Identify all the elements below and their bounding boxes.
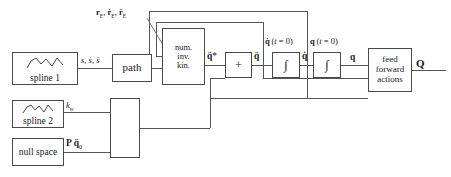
wire-sum-to-int1 [252, 65, 272, 66]
signal-label-integrator1-initial-condition: q̇ (t = 0) [265, 36, 293, 46]
wire-nik-to-sum [205, 65, 225, 66]
signal-label-sum-output: q̈ [254, 51, 259, 61]
wire-feedback-inner-riser [263, 22, 264, 65]
block-middle-unlabeled[interactable] [110, 98, 140, 158]
wire-nullspace-to-mid [64, 152, 110, 153]
block-feed-forward-actions[interactable]: feed forward actions [368, 48, 412, 92]
block-path-label: path [123, 62, 142, 74]
wire-qdot-to-feedforward [263, 78, 368, 79]
integral-icon: ∫ [284, 58, 288, 72]
block-summing-junction[interactable]: + [225, 52, 252, 78]
signal-label-nullspace-output: P q̈0 [66, 138, 82, 150]
wire-spline2-to-mid [64, 112, 110, 113]
block-spline-2[interactable]: spline 2 [12, 100, 64, 128]
signal-label-feedforward-output: Q [416, 57, 425, 69]
block-integrator-2[interactable]: ∫ [313, 52, 341, 78]
wire-q-branch-down [307, 65, 308, 98]
signal-label-spline1-output: s, ṡ, s̈ [81, 55, 99, 65]
block-null-space[interactable]: null space [12, 138, 64, 166]
integral-icon: ∫ [325, 58, 329, 72]
block-path[interactable]: path [112, 54, 152, 82]
wire-feedback-outer-top [149, 11, 308, 12]
summing-junction-plus-sign: + [235, 59, 242, 72]
block-diagram-canvas: spline 1 spline 2 null space path num. i… [0, 0, 451, 177]
wire-qdot-branch-down [263, 65, 264, 78]
wire-riser-to-sum [210, 78, 225, 79]
block-feedforward-line-3: actions [377, 75, 403, 85]
block-numerical-inverse-kinematics[interactable]: num. inv. kin. [162, 28, 205, 85]
signal-label-nik-output: q̈* [207, 51, 217, 61]
block-nik-line-3: kin. [177, 61, 190, 70]
signal-label-integrator2-initial-condition: q (t = 0) [310, 36, 338, 46]
block-spline-1-label: spline 1 [30, 73, 60, 83]
block-null-space-label: null space [19, 147, 57, 157]
wire-q-to-feedforward [210, 98, 368, 99]
wire-mid-to-riser [140, 128, 210, 129]
signal-label-path-output: rE, ṙE, r̈E [96, 7, 126, 19]
spline-curve-icon [21, 103, 55, 115]
block-integrator-1[interactable]: ∫ [272, 52, 300, 78]
signal-label-spline2-output: kw [66, 100, 74, 112]
wire-spline1-to-path [78, 68, 112, 69]
wire-riser-mid [210, 78, 211, 128]
block-spline-2-label: spline 2 [23, 116, 53, 126]
block-spline-1[interactable]: spline 1 [12, 52, 78, 85]
wire-int2-to-feedforward [341, 65, 368, 66]
signal-label-integrator1-output: q̇ [302, 51, 307, 61]
spline-curve-icon [25, 56, 65, 70]
wire-feedforward-output [412, 70, 446, 71]
signal-label-integrator2-output: q [350, 52, 355, 62]
